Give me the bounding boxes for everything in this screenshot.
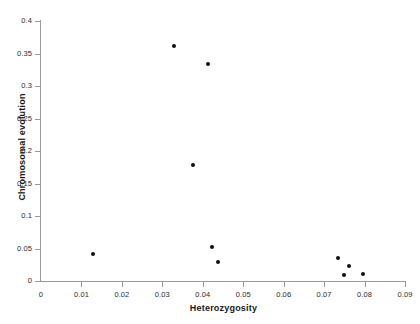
x-axis-line — [41, 281, 406, 282]
y-axis-tick — [35, 151, 40, 152]
y-axis-tick-label: 0.4 — [2, 16, 32, 25]
x-axis-tick-label: 0 — [21, 290, 61, 299]
x-axis-tick — [243, 282, 244, 287]
data-point — [206, 62, 210, 66]
x-axis-tick — [81, 282, 82, 287]
x-axis-tick — [284, 282, 285, 287]
x-axis-tick — [324, 282, 325, 287]
data-point — [91, 252, 95, 256]
x-axis-tick — [162, 282, 163, 287]
data-point — [336, 256, 340, 260]
x-axis-tick-label: 0.09 — [385, 290, 420, 299]
x-axis-tick-label: 0.02 — [102, 290, 142, 299]
y-axis-title: Chromosomal evolution — [17, 57, 27, 237]
x-axis-tick-label: 0.04 — [183, 290, 223, 299]
data-point — [210, 245, 214, 249]
y-axis-tick — [35, 54, 40, 55]
plot-area — [41, 21, 405, 281]
data-point — [191, 163, 195, 167]
x-axis-tick-label: 0.07 — [304, 290, 344, 299]
y-axis-tick — [35, 281, 40, 282]
data-point — [216, 260, 220, 264]
y-axis-tick — [35, 86, 40, 87]
x-axis-tick-label: 0.05 — [223, 290, 263, 299]
data-point — [342, 273, 346, 277]
x-axis-tick — [365, 282, 366, 287]
y-axis-tick — [35, 216, 40, 217]
y-axis-tick — [35, 21, 40, 22]
scatter-plot-figure: 00.050.10.150.20.250.30.350.4 00.010.020… — [0, 0, 420, 324]
x-axis-tick-label: 0.08 — [345, 290, 385, 299]
y-axis-tick — [35, 119, 40, 120]
x-axis-tick-label: 0.01 — [61, 290, 101, 299]
y-axis-tick — [35, 184, 40, 185]
y-axis-tick — [35, 249, 40, 250]
x-axis-tick-label: 0.06 — [264, 290, 304, 299]
x-axis-title: Heterozygosity — [41, 303, 406, 313]
x-axis-tick-label: 0.03 — [142, 290, 182, 299]
x-axis-tick — [122, 282, 123, 287]
x-axis-tick — [203, 282, 204, 287]
y-axis-tick-label: 0 — [2, 276, 32, 285]
x-axis-tick — [405, 282, 406, 287]
y-axis-tick-label: 0.05 — [2, 244, 32, 253]
